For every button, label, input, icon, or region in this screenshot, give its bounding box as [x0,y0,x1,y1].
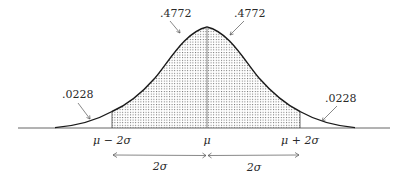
label-mu: μ [203,134,210,147]
label-left-tail-area: .0228 [62,88,94,101]
normal-distribution-diagram: .4772 .4772 .0228 .0228 μ − 2σ μ μ + 2σ … [0,0,405,177]
interval-arrows [113,153,299,159]
label-right-interval: 2σ [246,161,262,174]
label-right-center-area: .4772 [234,7,266,20]
label-left-center-area: .4772 [160,7,192,20]
label-mu-plus-2sigma: μ + 2σ [281,134,319,147]
label-mu-minus-2sigma: μ − 2σ [93,134,131,147]
shaded-area [112,27,300,128]
label-right-tail-area: .0228 [325,92,357,105]
label-left-interval: 2σ [152,160,168,173]
